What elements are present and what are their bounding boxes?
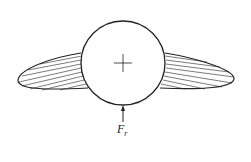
right-hatching <box>161 56 234 89</box>
force-label: Fr <box>117 122 127 138</box>
left-hatching <box>19 56 86 90</box>
right-load-lobe <box>160 53 234 89</box>
force-arrow-icon <box>121 105 125 122</box>
